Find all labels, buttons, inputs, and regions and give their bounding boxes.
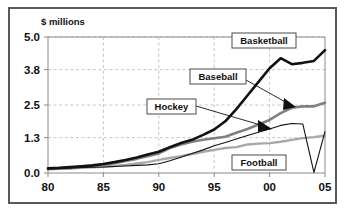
y-tick-label: 3.8	[24, 64, 41, 76]
y-tick-labels: 0.01.32.53.85.0	[24, 31, 41, 179]
callout-hockey[interactable]: Hockey	[147, 99, 196, 114]
callout-label: Football	[241, 157, 278, 168]
y-tick-label: 1.3	[24, 132, 40, 144]
y-tick-label: 0.0	[24, 167, 40, 179]
x-tick-label: 05	[319, 181, 332, 193]
y-tick-label: 2.5	[24, 99, 41, 111]
callout-label: Hockey	[155, 101, 190, 112]
callout-baseball[interactable]: Baseball	[190, 69, 246, 84]
x-tick-label: 85	[97, 181, 110, 193]
x-tick-label: 80	[42, 181, 55, 193]
callout-label: Baseball	[198, 71, 237, 82]
callout-football[interactable]: Football	[232, 155, 286, 170]
x-tick-label: 00	[263, 181, 276, 193]
x-tick-labels: 808590950005	[42, 181, 332, 193]
y-axis-title: $ millions	[41, 16, 85, 27]
callout-label: Basketball	[240, 35, 288, 46]
x-tick-label: 95	[208, 181, 221, 193]
x-tick-label: 90	[152, 181, 165, 193]
callout-basketball[interactable]: Basketball	[232, 33, 296, 48]
line-chart: 0.01.32.53.85.0 808590950005 $ millions …	[0, 0, 350, 220]
y-tick-label: 5.0	[24, 31, 40, 43]
